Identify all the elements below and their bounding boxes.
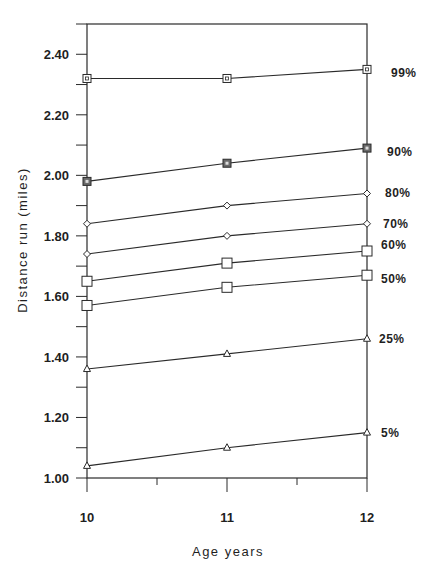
- diamond-marker-icon: [84, 251, 91, 258]
- series-line: [84, 190, 371, 227]
- series-line: [84, 335, 371, 372]
- series-line: [83, 144, 371, 185]
- series-label: 25%: [379, 332, 405, 346]
- square-marker-icon: [82, 300, 92, 310]
- square-marker-icon: [362, 270, 372, 280]
- series-label: 99%: [391, 66, 417, 80]
- square-dot-marker-icon: [83, 74, 91, 82]
- series-label: 5%: [381, 426, 399, 440]
- percentile-line-chart: 1.001.201.401.601.802.002.202.40 101112 …: [0, 0, 424, 579]
- y-tick-label: 2.40: [44, 47, 69, 62]
- x-tick-label: 10: [80, 510, 94, 525]
- y-axis: 1.001.201.401.601.802.002.202.40: [44, 24, 87, 486]
- series-line: [84, 429, 371, 469]
- x-axis-title: Age years: [192, 544, 264, 559]
- series-labels: 99%90%80%70%60%50%25%5%: [379, 66, 417, 439]
- y-tick-label: 1.20: [44, 410, 69, 425]
- series-label: 60%: [381, 238, 407, 252]
- square-marker-icon: [222, 258, 232, 268]
- square-marker-icon: [222, 282, 232, 292]
- square-marker-icon: [82, 276, 92, 286]
- y-tick-label: 1.60: [44, 289, 69, 304]
- triangle-marker-icon: [364, 429, 371, 436]
- x-tick-label: 11: [220, 510, 234, 525]
- y-axis-title: Distance run (miles): [15, 167, 30, 313]
- series-label: 90%: [387, 145, 413, 159]
- diamond-marker-icon: [224, 232, 231, 239]
- diamond-marker-icon: [84, 220, 91, 227]
- square-dot-marker-icon: [363, 65, 371, 73]
- series-label: 50%: [381, 272, 407, 286]
- y-tick-label: 1.40: [44, 350, 69, 365]
- series-label: 70%: [383, 217, 409, 231]
- y-tick-label: 2.20: [44, 108, 69, 123]
- y-tick-label: 1.80: [44, 229, 69, 244]
- series-lines: [82, 65, 372, 468]
- diamond-marker-icon: [364, 190, 371, 197]
- y-tick-label: 2.00: [44, 168, 69, 183]
- x-tick-label: 12: [360, 510, 374, 525]
- plot-frame: [87, 24, 367, 478]
- series-line: [83, 65, 371, 82]
- series-line: [82, 246, 372, 286]
- triangle-marker-icon: [364, 335, 371, 342]
- plot-border: [87, 24, 367, 478]
- square-dot-marker-icon: [223, 74, 231, 82]
- series-line: [84, 220, 371, 257]
- diamond-marker-icon: [364, 220, 371, 227]
- x-axis: 101112: [80, 478, 374, 525]
- diamond-marker-icon: [224, 202, 231, 209]
- series-label: 80%: [385, 186, 411, 200]
- y-tick-label: 1.00: [44, 471, 69, 486]
- square-marker-icon: [362, 246, 372, 256]
